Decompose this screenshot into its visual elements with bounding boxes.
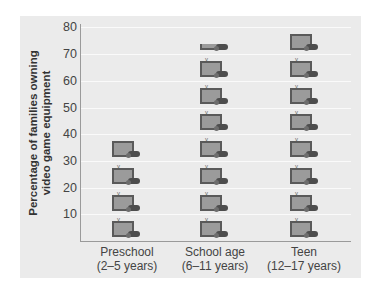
y-axis-label: Percentage of families owning video game… [27, 50, 53, 216]
tv-game-controller-icon: v [200, 219, 234, 239]
y-tick-50: 50 [55, 101, 77, 115]
x-axis [80, 241, 351, 242]
y-tick-20: 20 [55, 181, 77, 195]
gridline-50 [81, 108, 351, 109]
tv-game-controller-icon: v [290, 193, 324, 213]
tv-game-controller-icon: v [200, 139, 234, 159]
y-tick-70: 70 [55, 47, 77, 61]
x-category-teen: Teen (12–17 years) [259, 245, 349, 273]
tv-game-controller-icon: v [112, 219, 146, 239]
category-range: (6–11 years) [170, 259, 260, 273]
tv-game-controller-icon: v [200, 166, 234, 186]
category-name: Preschool [82, 245, 172, 259]
y-tick-30: 30 [55, 154, 77, 168]
tv-game-controller-icon: v [200, 112, 234, 132]
tv-game-controller-icon: v [290, 112, 324, 132]
tv-game-controller-icon: v [290, 166, 324, 186]
tv-game-controller-icon: v [290, 219, 324, 239]
tv-game-controller-icon: v [200, 193, 234, 213]
y-axis [80, 24, 81, 241]
y-tick-10: 10 [55, 207, 77, 221]
tv-game-controller-icon: v [112, 193, 146, 213]
category-name: School age [170, 245, 260, 259]
tv-game-controller-icon: v [290, 139, 324, 159]
tv-game-controller-icon: v [200, 59, 234, 79]
gridline-20 [81, 188, 351, 189]
tv-game-controller-icon [290, 32, 324, 52]
y-tick-80: 80 [55, 20, 77, 34]
x-category-school-age: School age (6–11 years) [170, 245, 260, 273]
tv-game-controller-icon: v [112, 166, 146, 186]
gridline-80 [81, 27, 351, 28]
gridline-40 [81, 134, 351, 135]
tv-game-controller-icon: v [200, 86, 234, 106]
tv-game-controller-icon [112, 141, 146, 159]
tv-game-controller-icon: v [290, 86, 324, 106]
y-axis-label-line-1: Percentage of families owning [27, 50, 40, 216]
gridline-60 [81, 81, 351, 82]
gridline-70 [81, 54, 351, 55]
category-range: (2–5 years) [82, 259, 172, 273]
tv-game-controller-icon [200, 44, 234, 52]
category-range: (12–17 years) [259, 259, 349, 273]
y-tick-60: 60 [55, 74, 77, 88]
category-name: Teen [259, 245, 349, 259]
gridline-30 [81, 161, 351, 162]
tv-game-controller-icon: v [290, 59, 324, 79]
x-category-preschool: Preschool (2–5 years) [82, 245, 172, 273]
gridline-10 [81, 214, 351, 215]
y-axis-label-line-2: video game equipment [40, 50, 53, 216]
y-tick-40: 40 [55, 127, 77, 141]
